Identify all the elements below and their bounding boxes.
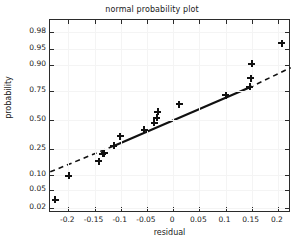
x-tick-top (147, 20, 148, 24)
y-tick-label: 0.95 (6, 43, 46, 52)
x-tick-top (252, 20, 253, 24)
x-tick-top (278, 20, 279, 24)
y-tick-label: 0.02 (6, 202, 46, 211)
y-tick (50, 49, 54, 50)
y-tick (50, 120, 54, 121)
y-tick-right (285, 190, 289, 191)
y-tick (50, 65, 54, 66)
y-tick (50, 91, 54, 92)
chart-title: normal probability plot (0, 5, 304, 14)
y-tick (50, 190, 54, 191)
plot-axes (49, 19, 290, 212)
y-tick-right (285, 208, 289, 209)
y-tick (50, 208, 54, 209)
y-tick-label: 0.10 (6, 169, 46, 178)
gridline-horizontal (50, 49, 289, 50)
gridline-horizontal (50, 91, 289, 92)
y-tick (50, 32, 54, 33)
gridline-horizontal (50, 208, 289, 209)
x-tick-top (95, 20, 96, 24)
y-tick-label: 0.50 (6, 114, 46, 123)
gridline-horizontal (50, 120, 289, 121)
x-tick-top (121, 20, 122, 24)
y-tick-right (285, 49, 289, 50)
gridline-horizontal (50, 65, 289, 66)
y-tick-label: 0.05 (6, 184, 46, 193)
x-tick-top (173, 20, 174, 24)
normal-probability-plot-figure: normal probability plot probability resi… (0, 0, 304, 247)
y-tick-right (285, 65, 289, 66)
gridline-horizontal (50, 175, 289, 176)
y-tick-label: 0.25 (6, 143, 46, 152)
x-tick-top (199, 20, 200, 24)
dashed-upper-reference-line (249, 68, 291, 88)
y-tick-right (285, 175, 289, 176)
gridline-horizontal (50, 190, 289, 191)
solid-reference-line (113, 88, 249, 147)
dashed-lower-reference-line (50, 146, 112, 171)
gridline-horizontal (50, 32, 289, 33)
y-tick-right (285, 120, 289, 121)
x-tick-top (68, 20, 69, 24)
y-tick-right (285, 149, 289, 150)
x-axis-label: residual (49, 228, 290, 237)
y-tick-right (285, 91, 289, 92)
y-tick-label: 0.90 (6, 59, 46, 68)
y-tick-right (285, 32, 289, 33)
y-tick-label: 0.98 (6, 26, 46, 35)
y-tick (50, 175, 54, 176)
y-tick-label: 0.75 (6, 85, 46, 94)
gridline-horizontal (50, 149, 289, 150)
x-tick-top (226, 20, 227, 24)
x-tick-label: 0.2 (259, 215, 295, 224)
y-tick (50, 149, 54, 150)
